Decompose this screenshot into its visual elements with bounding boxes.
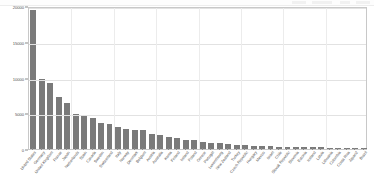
bar[interactable] xyxy=(115,127,121,149)
toolbar-strip xyxy=(0,0,374,6)
vertical-gridline xyxy=(156,8,157,149)
vertical-gridline xyxy=(326,8,327,149)
bar[interactable] xyxy=(132,130,138,149)
bar[interactable] xyxy=(157,135,163,149)
y-tick-label: 0 xyxy=(22,148,24,153)
gridline xyxy=(29,80,366,81)
gridline xyxy=(29,8,366,9)
bar[interactable] xyxy=(81,116,87,149)
gridline xyxy=(29,115,366,116)
x-axis-labels: United StatesGermanyUnited KingdomFrance… xyxy=(28,150,367,195)
vertical-gridline xyxy=(199,8,200,149)
bar[interactable] xyxy=(73,114,79,149)
y-tick-label: 20000 xyxy=(13,5,24,10)
y-axis: 05000100001500020000 xyxy=(0,7,28,150)
chart-screenshot: 05000100001500020000 United StatesGerman… xyxy=(0,0,374,195)
y-tick-label: 10000 xyxy=(13,76,24,81)
vertical-gridline xyxy=(283,8,284,149)
vertical-gridline xyxy=(71,8,72,149)
bar[interactable] xyxy=(140,130,146,149)
bar[interactable] xyxy=(107,124,113,149)
vertical-gridline xyxy=(114,8,115,149)
vertical-gridline xyxy=(241,8,242,149)
x-tick-label: Israel xyxy=(265,150,275,160)
gridline xyxy=(29,44,366,45)
bar[interactable] xyxy=(39,79,45,149)
bar[interactable] xyxy=(90,118,96,149)
y-tick-label: 5000 xyxy=(15,112,24,117)
x-tick-label: Brazil xyxy=(358,150,368,161)
bar[interactable] xyxy=(123,129,129,149)
bar[interactable] xyxy=(149,134,155,149)
bar-series xyxy=(29,8,366,149)
bar[interactable] xyxy=(64,103,70,149)
bar[interactable] xyxy=(56,97,62,149)
plot-area xyxy=(28,7,367,150)
y-tick-label: 15000 xyxy=(13,40,24,45)
bar[interactable] xyxy=(98,123,104,149)
